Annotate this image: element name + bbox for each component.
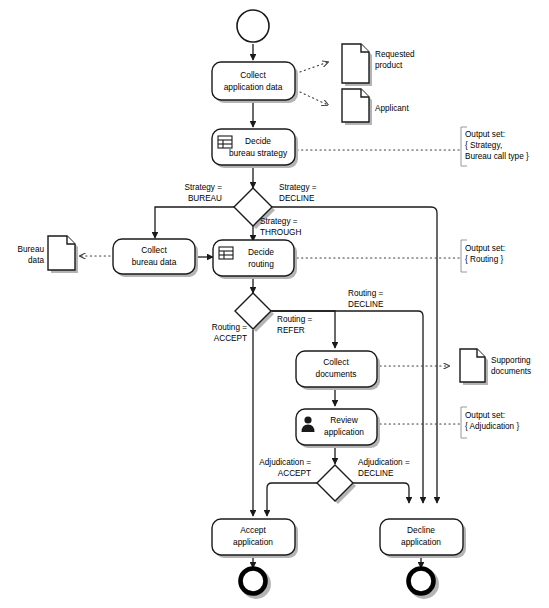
start-event[interactable] [237,10,269,42]
task-label-line2: bureau strategy [229,148,288,158]
annotation-line2: { Strategy, [465,141,502,150]
edge-label-line2: THROUGH [260,228,301,237]
annotation-line1: Output set: [465,244,505,253]
data-object-label-line1: Requested [375,50,415,59]
annotation-line2: { Adjudication } [465,422,519,431]
edge-label-line1: Strategy = [260,217,298,226]
annotation-line2: { Routing } [465,255,504,264]
data-object-applicant[interactable]: Applicant [342,89,409,125]
edge-label-strategy-bureau: Strategy = BUREAU [184,183,222,203]
annotation-line3: Bureau call type } [465,152,529,161]
flow-strategy-bureau [155,207,234,238]
task-decline-application[interactable]: Decline application [380,519,466,558]
edge-label-line1: Adjudication = [259,458,311,467]
flow-adjudication-accept [267,483,317,516]
data-object-requested-product[interactable]: Requested product [342,44,415,86]
flow-adjudication-decline [353,483,409,503]
annotation-line1: Output set: [465,130,505,139]
data-object-label-line2: data [28,256,44,265]
data-object-label-line1: Applicant [375,104,409,113]
edge-label-line2: BUREAU [188,194,222,203]
annotation-line1: Output set: [465,411,505,420]
task-label-line2: application [233,537,273,547]
gateway-adjudication[interactable] [317,465,356,504]
data-object-label-line1: Supporting [491,356,531,365]
data-object-supporting-documents[interactable]: Supporting documents [460,349,531,385]
task-decide-bureau-strategy[interactable]: Decide bureau strategy [212,129,298,168]
edge-label-line2: DECLINE [358,469,394,478]
data-object-label-line2: documents [491,367,531,376]
annotation-output-set-strategy: Output set: { Strategy, Bureau call type… [461,127,529,166]
task-label-line2: routing [248,259,274,269]
data-object-bureau-data[interactable]: Bureau data [18,236,78,273]
task-collect-documents[interactable]: Collect documents [296,351,380,390]
annotation-output-set-adjudication: Output set: { Adjudication } [461,407,519,438]
end-event-decline[interactable] [409,569,440,600]
task-label-line2: application data [224,82,283,92]
edge-label-line2: DECLINE [279,194,315,203]
task-label-line1: Review [330,415,358,425]
task-label-line2: application [324,427,364,437]
edge-label-routing-decline: Routing = DECLINE [348,289,384,309]
task-accept-application[interactable]: Accept application [212,519,298,558]
task-label-line1: Collect [323,357,349,367]
edge-label-line1: Routing = [277,315,312,324]
edge-label-line1: Adjudication = [358,458,410,467]
edge-label-line2: ACCEPT [214,334,247,343]
diagram-canvas: Collect application data Decide bureau s… [0,0,549,608]
task-label-line2: documents [316,369,357,379]
assoc-collect-application-data-to-applicant [300,92,328,105]
edge-label-line1: Routing = [212,323,247,332]
task-label-line1: Decide [245,136,271,146]
task-label-line1: Decide [248,247,274,257]
edge-label-line1: Strategy = [184,183,222,192]
task-decide-routing[interactable]: Decide routing [213,240,297,279]
edge-label-line2: DECLINE [348,300,384,309]
edge-label-line2: REFER [277,326,305,335]
task-label-line2: bureau data [132,257,177,267]
task-label-line1: Accept [240,525,266,535]
process-flow-diagram: Collect application data Decide bureau s… [0,0,549,608]
annotation-output-set-routing: Output set: { Routing } [461,240,505,272]
task-label-line1: Collect [141,245,167,255]
edge-label-adjudication-accept: Adjudication = ACCEPT [259,458,311,478]
task-label-line2: application [401,537,441,547]
task-collect-bureau-data[interactable]: Collect bureau data [113,239,198,277]
task-collect-application-data[interactable]: Collect application data [212,62,298,103]
assoc-collect-application-data-to-requested-product [300,62,328,72]
task-label-line1: Collect [240,70,266,80]
edge-label-line2: ACCEPT [278,469,311,478]
task-review-application[interactable]: Review application [296,409,380,448]
edge-label-line1: Routing = [348,289,383,298]
data-object-label-line2: product [375,61,403,70]
edge-label-routing-refer: Routing = REFER [277,315,312,335]
edge-label-routing-accept: Routing = ACCEPT [212,323,247,343]
end-event-accept[interactable] [241,569,272,600]
edge-label-adjudication-decline: Adjudication = DECLINE [358,458,410,478]
edge-label-line1: Strategy = [279,183,317,192]
task-label-line1: Decline [407,525,435,535]
edge-label-strategy-through: Strategy = THROUGH [260,217,301,237]
edge-label-strategy-decline: Strategy = DECLINE [279,183,317,203]
data-object-label-line1: Bureau [18,245,45,254]
